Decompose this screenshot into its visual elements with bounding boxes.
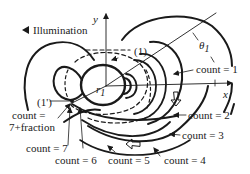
count-fraction-line2: 7+fraction bbox=[9, 122, 55, 133]
count-4-label: count = 4 bbox=[164, 155, 206, 166]
point-1-prime-label: (1') bbox=[37, 97, 52, 108]
count-1-label: count = 1 bbox=[196, 64, 238, 75]
x-axis-label: x bbox=[223, 89, 228, 100]
fringe-count-diagram: Illumination y x θ1 r1 (1) (1') count = … bbox=[0, 0, 250, 174]
count-6-label: count = 6 bbox=[55, 155, 97, 166]
y-axis-label: y bbox=[93, 14, 98, 25]
leader-count-5 bbox=[108, 146, 115, 152]
leader-count-6 bbox=[80, 108, 83, 148]
theta-tick-2 bbox=[211, 57, 214, 62]
illumination-label: Illumination bbox=[33, 25, 87, 36]
r-subscript: 1 bbox=[100, 87, 105, 98]
theta-label: θ1 bbox=[199, 40, 209, 54]
left-lobe bbox=[54, 67, 82, 100]
count-2-label: count = 2 bbox=[188, 110, 230, 121]
leader-p1 bbox=[112, 58, 118, 60]
leader-count-fraction bbox=[58, 104, 70, 118]
dashed-left-lobe bbox=[65, 70, 68, 98]
count-fraction-line1: count = bbox=[12, 110, 45, 121]
r1-label: r1 bbox=[96, 84, 105, 98]
theta-subscript: 1 bbox=[204, 43, 209, 54]
count-5-label: count = 5 bbox=[108, 155, 150, 166]
point-1-prime bbox=[70, 99, 74, 103]
illumination-arrow-icon bbox=[22, 26, 29, 34]
point-1-label: (1) bbox=[134, 46, 147, 57]
theta-tick bbox=[193, 33, 198, 40]
leader-count-1 bbox=[174, 70, 193, 74]
fringe-right-tick bbox=[231, 104, 234, 114]
leader-count-7 bbox=[68, 108, 70, 145]
count-7-label: count = 7 bbox=[26, 143, 68, 154]
count-3-label: count = 3 bbox=[182, 130, 224, 141]
fringe-outer-arc bbox=[122, 17, 232, 66]
